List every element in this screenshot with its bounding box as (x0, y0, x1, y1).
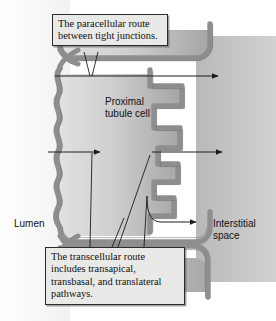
callout-paracellular-line2: between tight junctions. (58, 30, 163, 42)
callout-paracellular-route: The paracellular route between tight jun… (52, 14, 168, 46)
label-proximal-tubule-cell: Proximal tubule cell (105, 96, 150, 121)
callout-transcellular-line4: pathways. (51, 288, 180, 300)
callout-paracellular-line1: The paracellular route (58, 18, 163, 30)
interstitial-region (196, 36, 276, 282)
callout-transcellular-line1: The transcellular route (51, 251, 180, 263)
callout-transcellular-route: The transcellular route includes transap… (45, 247, 185, 305)
figure-canvas: The paracellular route between tight jun… (0, 0, 276, 321)
label-lumen: Lumen (14, 218, 45, 230)
callout-transcellular-line3: transbasal, and translateral (51, 276, 180, 288)
callout-transcellular-line2: includes transapical, (51, 263, 180, 275)
label-interstitial-space: Interstitial space (213, 218, 256, 243)
